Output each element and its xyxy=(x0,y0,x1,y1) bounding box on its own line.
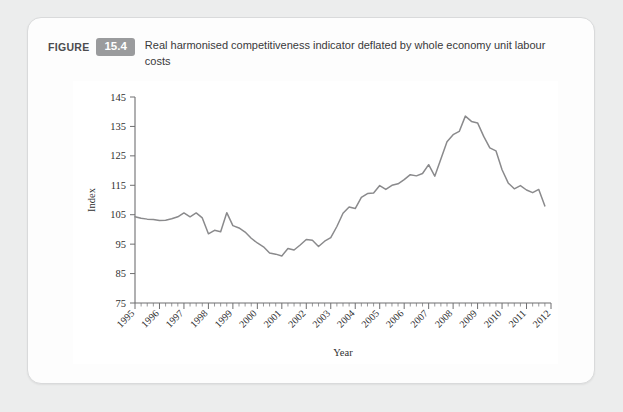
x-tick-label: 2001 xyxy=(261,308,283,330)
x-tick-label: 2010 xyxy=(482,308,504,330)
x-tick-label: 1998 xyxy=(188,308,210,330)
x-axis-title: Year xyxy=(333,347,353,358)
x-tick-label: 2000 xyxy=(237,308,259,330)
y-tick-label: 115 xyxy=(111,180,126,191)
y-tick-label: 95 xyxy=(116,239,127,250)
y-tick-label: 145 xyxy=(110,92,126,103)
y-tick-label: 135 xyxy=(110,121,126,132)
x-tick-label: 2008 xyxy=(433,308,455,330)
y-tick-label: 105 xyxy=(110,209,126,220)
x-tick-label: 2006 xyxy=(384,308,406,330)
figure-caption-row: FIGURE 15.4 Real harmonised competitiven… xyxy=(48,38,572,70)
x-tick-label: 1995 xyxy=(114,308,136,330)
y-tick-label: 75 xyxy=(116,298,127,309)
x-tick-label: 2004 xyxy=(335,308,357,330)
x-tick-label: 1996 xyxy=(139,308,161,330)
figure-card: FIGURE 15.4 Real harmonised competitiven… xyxy=(27,17,595,384)
figure-label: FIGURE xyxy=(48,38,89,53)
x-tick-label: 2002 xyxy=(286,308,308,330)
x-tick-label: 2012 xyxy=(530,308,552,330)
y-axis-title: Index xyxy=(86,187,97,212)
x-axis: 1995199619971998199920002001200220032004… xyxy=(114,303,552,330)
figure-number-badge: 15.4 xyxy=(96,38,134,56)
y-tick-label: 85 xyxy=(116,268,127,279)
line-chart: 758595105115125135145 199519961997199819… xyxy=(73,81,558,364)
y-tick-label: 125 xyxy=(110,150,126,161)
x-tick-label: 1999 xyxy=(212,308,234,330)
y-axis: 758595105115125135145 xyxy=(110,92,135,309)
data-series-line xyxy=(135,116,545,256)
x-tick-label: 2005 xyxy=(359,308,381,330)
x-tick-label: 2007 xyxy=(408,308,430,330)
figure-caption-text: Real harmonised competitiveness indicato… xyxy=(145,38,565,70)
x-tick-label: 1997 xyxy=(163,308,185,330)
x-tick-label: 2003 xyxy=(310,308,332,330)
chart-plot-panel: 758595105115125135145 199519961997199819… xyxy=(73,81,558,364)
x-tick-label: 2011 xyxy=(506,308,528,330)
x-tick-label: 2009 xyxy=(457,308,479,330)
